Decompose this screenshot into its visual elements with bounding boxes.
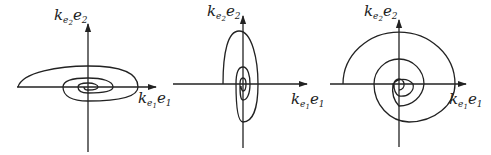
panel-2-y-axis-label: ke2e2 xyxy=(207,4,241,23)
panel-3-y-axis-label: ke2e2 xyxy=(364,4,398,23)
panel-3-x-axis-label: ke1e1 xyxy=(449,92,483,111)
spiral-trajectory xyxy=(18,66,138,101)
spiral-trajectory xyxy=(223,31,258,122)
panel-1 xyxy=(17,24,156,152)
panel-2 xyxy=(173,16,307,148)
panel-2-x-axis-label: ke1e1 xyxy=(291,92,325,111)
panel-1-x-axis-label: ke1e1 xyxy=(138,91,172,110)
panel-1-y-axis-label: ke2e2 xyxy=(54,8,88,27)
panel-3 xyxy=(330,20,466,147)
